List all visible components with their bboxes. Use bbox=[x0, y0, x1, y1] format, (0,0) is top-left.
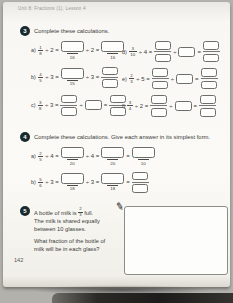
fraction-denominator: 4 bbox=[127, 106, 132, 111]
workbook-page: Unit 8: Fractions (1), Lesson 4 3 Comple… bbox=[3, 2, 230, 287]
fraction-denominator: 3 bbox=[129, 79, 134, 84]
printed-denominator: 16 bbox=[107, 53, 118, 60]
part-label: a) bbox=[31, 47, 36, 53]
answer-fraction-boxes bbox=[132, 172, 149, 193]
fraction-denominator: 8 bbox=[38, 51, 43, 56]
question-4-rows: a)25÷ 4 =20÷ 4 =20=10b)56÷ 3 =18÷ 3 =18= bbox=[31, 147, 155, 193]
printed-denominator: 18 bbox=[67, 185, 78, 192]
calculation-part: c)38÷ 3 =÷= bbox=[31, 95, 126, 116]
printed-fraction: 18 bbox=[38, 45, 43, 56]
part-label: c) bbox=[31, 102, 36, 108]
fraction-bar bbox=[101, 77, 118, 78]
printed-fraction: 45 bbox=[38, 72, 43, 83]
working-space-box bbox=[124, 206, 228, 275]
operator: ÷ 5 = bbox=[136, 76, 149, 82]
printed-fraction: 23 bbox=[129, 73, 134, 84]
calculation-part: d)310÷ 4 =÷= bbox=[122, 41, 220, 62]
operator: ÷ 3 = bbox=[86, 74, 99, 80]
operator: ÷ 3 = bbox=[45, 102, 58, 108]
numerator-answer-box bbox=[203, 41, 219, 50]
answer-box-over-denominator: 16 bbox=[61, 41, 84, 60]
operator: ÷ bbox=[79, 102, 82, 108]
answer-fraction-boxes bbox=[199, 95, 216, 116]
answer-box-over-denominator: 15 bbox=[61, 68, 84, 87]
answer-fraction-boxes bbox=[152, 68, 169, 89]
q5-line1: A bottle of milk is 23 full. bbox=[34, 210, 93, 216]
answer-fraction-boxes bbox=[154, 41, 171, 62]
fraction-bar bbox=[132, 182, 149, 183]
operator: ÷ bbox=[169, 103, 172, 109]
operator: ÷ 4 = bbox=[86, 153, 99, 159]
operator: = bbox=[104, 102, 108, 108]
answer-box bbox=[61, 68, 84, 79]
answer-box bbox=[101, 173, 124, 184]
printed-fraction: 56 bbox=[38, 177, 43, 188]
q5-line4: What fraction of the bottle of bbox=[34, 238, 105, 244]
operator: = bbox=[126, 153, 130, 159]
printed-denominator: 10 bbox=[138, 159, 149, 166]
part-label: b) bbox=[31, 74, 36, 80]
printed-denominator: 20 bbox=[67, 159, 78, 166]
operator: ÷ 2 = bbox=[45, 47, 58, 53]
divisor-answer-box bbox=[175, 101, 192, 111]
divisor-answer-box bbox=[85, 100, 102, 110]
part-label: d) bbox=[122, 49, 127, 55]
page-number: 142 bbox=[14, 257, 23, 263]
answer-box bbox=[61, 41, 84, 52]
fraction-denominator: 5 bbox=[38, 157, 43, 162]
answer-box bbox=[61, 147, 84, 158]
printed-denominator: 15 bbox=[67, 80, 78, 87]
answer-fraction-boxes bbox=[60, 95, 77, 116]
denominator-answer-box bbox=[201, 81, 217, 90]
answer-box bbox=[132, 147, 155, 158]
printed-fraction: 310 bbox=[129, 46, 137, 57]
answer-box-over-denominator: 20 bbox=[101, 147, 124, 166]
fraction-denominator: 6 bbox=[38, 183, 43, 188]
numerator-answer-box bbox=[155, 41, 171, 50]
numerator-answer-box bbox=[201, 68, 217, 77]
question-3-number: 3 bbox=[20, 26, 30, 36]
operator: ÷ 4 = bbox=[45, 153, 58, 159]
answer-box-over-denominator: 10 bbox=[132, 147, 155, 166]
denominator-answer-box bbox=[151, 108, 167, 117]
part-label: b) bbox=[31, 179, 36, 185]
operator: ÷ 4 = bbox=[139, 49, 152, 55]
part-label: f) bbox=[122, 103, 125, 109]
fraction-bar bbox=[60, 105, 77, 106]
part-label: a) bbox=[31, 153, 36, 159]
numerator-answer-box bbox=[151, 95, 167, 104]
divisor-answer-box bbox=[178, 47, 195, 57]
question-5-text: A bottle of milk is 23 full. The milk is… bbox=[34, 207, 122, 253]
fraction-bar bbox=[203, 51, 220, 52]
denominator-answer-box bbox=[102, 79, 118, 88]
fraction-bar bbox=[152, 78, 169, 79]
printed-fraction: 38 bbox=[38, 100, 43, 111]
printed-denominator: 16 bbox=[67, 53, 78, 60]
fraction-bar bbox=[150, 105, 167, 106]
denominator-answer-box bbox=[203, 54, 219, 63]
photo-background-strip bbox=[52, 293, 233, 303]
calculation-part: a)25÷ 4 =20÷ 4 =20=10 bbox=[31, 147, 155, 166]
fraction-denominator: 8 bbox=[38, 106, 43, 111]
operator: = bbox=[194, 103, 198, 109]
fraction-bar bbox=[201, 78, 218, 79]
operator: ÷ 2 = bbox=[86, 47, 99, 53]
operator: ÷ bbox=[171, 76, 174, 82]
operator: = bbox=[195, 76, 199, 82]
question-3-prompt: Complete these calculations. bbox=[34, 28, 109, 34]
answer-fraction-boxes bbox=[150, 95, 167, 116]
printed-fraction: 34 bbox=[127, 100, 132, 111]
answer-fraction-boxes bbox=[201, 68, 218, 89]
fraction-denominator: 5 bbox=[38, 78, 43, 83]
operator: ÷ 2 = bbox=[135, 103, 148, 109]
denominator-answer-box bbox=[132, 184, 148, 193]
part-label: e) bbox=[122, 76, 127, 82]
q5-line5: milk will be in each glass? bbox=[34, 246, 99, 252]
divisor-answer-box bbox=[176, 74, 193, 84]
numerator-answer-box bbox=[152, 68, 168, 77]
answer-box-over-denominator: 18 bbox=[101, 173, 124, 192]
answer-fraction-boxes bbox=[101, 67, 118, 88]
unit-header: Unit 8: Fractions (1), Lesson 4 bbox=[18, 6, 86, 11]
denominator-answer-box bbox=[61, 107, 77, 116]
numerator-answer-box bbox=[61, 95, 77, 104]
